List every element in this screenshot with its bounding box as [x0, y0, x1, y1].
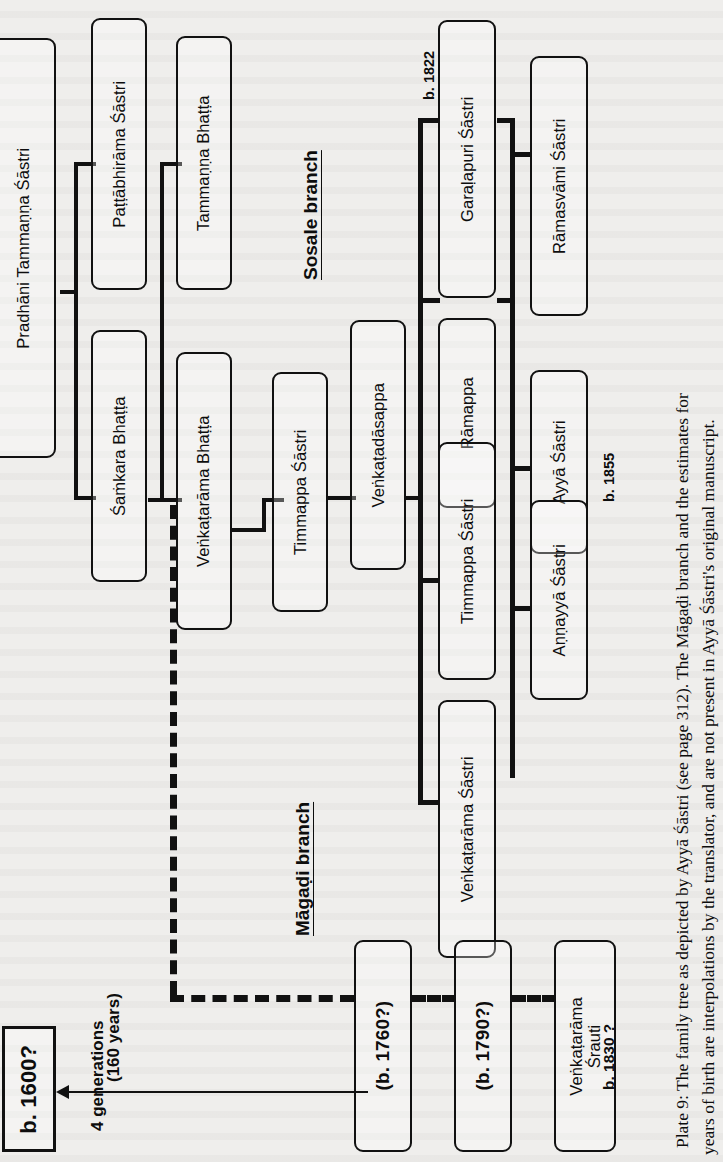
plate-caption-line-1: Plate 9: The family tree as depicted by … — [672, 393, 693, 1148]
node-b1600[interactable]: b. 1600? — [2, 1026, 56, 1152]
node-label: Rāmappa — [458, 377, 476, 449]
generations-arrow-line — [68, 1091, 368, 1093]
magadi-dashed-horizontal — [170, 995, 354, 1002]
node-label: b. 1600? — [17, 1045, 42, 1134]
connector-to-vksastri — [418, 800, 440, 805]
node-ramasvami-sastri[interactable]: Rāmasvāmi Śāstri — [530, 56, 588, 316]
node-venkatarama-sastri[interactable]: Veṅkaṭarāma Śāstri — [438, 700, 496, 958]
connector-vkdasappa-bus — [418, 118, 423, 804]
connector-samkara-bus — [160, 162, 164, 502]
node-label: Veṅkaṭarāma Śrauti — [567, 997, 604, 1095]
magadi-dash-1790-srauti — [512, 995, 556, 1002]
node-label: Aṇṇayyā Śāstri — [550, 544, 568, 656]
node-label: (b. 1760?) — [372, 1001, 393, 1091]
connector-pradhani-bus — [74, 162, 78, 500]
node-label: Śaṁkara Bhaṭṭa — [110, 396, 128, 516]
node-samkara-bhatta[interactable]: Śaṁkara Bhaṭṭa — [91, 330, 147, 582]
node-b1790[interactable]: (b. 1790?) — [454, 940, 512, 1152]
node-annayya-sastri[interactable]: Aṇṇayyā Śāstri — [530, 500, 588, 700]
node-garalapuri-sastri[interactable]: Garaḷapuri Śāstri — [438, 20, 496, 298]
node-label: Paṭṭābhirāma Śāstri — [110, 81, 128, 228]
node-label: Garaḷapuri Śāstri — [458, 96, 476, 222]
node-label: Rāmasvāmi Śāstri — [550, 118, 568, 253]
plate-caption-line-2: years of birth are interpolations by the… — [698, 419, 719, 1155]
node-label: Veṅkaṭarāma Śāstri — [458, 756, 476, 902]
node-timmappa-sastri-lower[interactable]: Timmappa Śāstri — [438, 442, 496, 680]
node-venkatarama-bhatta[interactable]: Veṅkaṭarāma Bhaṭṭa — [176, 352, 232, 630]
node-pradhani-tammanna-sastri[interactable]: Pradhāni Tammaṇṇa Śāstri — [0, 38, 56, 458]
node-pattabhirama-sastri[interactable]: Paṭṭābhirāma Śāstri — [91, 18, 147, 290]
node-label: Timmappa Śāstri — [291, 429, 309, 555]
connector-to-ayya — [510, 466, 532, 471]
node-label: Tammaṇṇa Bhaṭṭa — [195, 95, 213, 230]
connector-to-ramasvami — [510, 152, 532, 157]
node-timmappa-sastri-upper[interactable]: Timmappa Śāstri — [272, 372, 328, 612]
connector-to-ramappa — [418, 298, 440, 303]
node-label: (b. 1790?) — [472, 1001, 493, 1091]
generations-years-label: (160 years) — [104, 993, 124, 1082]
connector-to-annayya — [510, 606, 532, 611]
generations-arrow-head — [56, 1085, 69, 1099]
node-label: Timmappa Śāstri — [458, 498, 476, 624]
year-label-1855: b. 1855 — [601, 453, 617, 502]
connector-vkbhatta-stem — [232, 528, 266, 532]
connector-right-bus — [510, 118, 515, 778]
connector-to-timmappa2 — [418, 578, 440, 583]
magadi-dash-1760-1790 — [412, 995, 456, 1002]
node-label: Pradhāni Tammaṇṇa Śāstri — [15, 147, 33, 348]
connector-to-garalapuri — [418, 118, 440, 123]
node-label: Veṅkaṭarāma Bhaṭṭa — [195, 415, 213, 566]
sosale-branch-label: Sosale branch — [300, 150, 322, 280]
magadi-branch-label: Māgaḍi branch — [292, 802, 314, 936]
node-label: Ayyā Śāstri — [550, 420, 568, 504]
connector-ramappa-stem — [497, 298, 515, 303]
year-label-1822: b. 1822 — [421, 51, 437, 100]
node-b1760[interactable]: (b. 1760?) — [354, 940, 412, 1152]
year-label-1830: b. 1830 ? — [600, 1024, 618, 1090]
node-label: Veṅkaṭadāsappa — [369, 383, 387, 507]
connector-vkbhatta-bus — [262, 498, 266, 532]
node-tammanna-bhatta[interactable]: Tammaṇṇa Bhaṭṭa — [176, 36, 232, 290]
family-tree-plate: Pradhāni Tammaṇṇa Śāstri Paṭṭābhirāma Śā… — [0, 0, 723, 1162]
node-venkatadasappa[interactable]: Veṅkaṭadāsappa — [350, 320, 406, 570]
